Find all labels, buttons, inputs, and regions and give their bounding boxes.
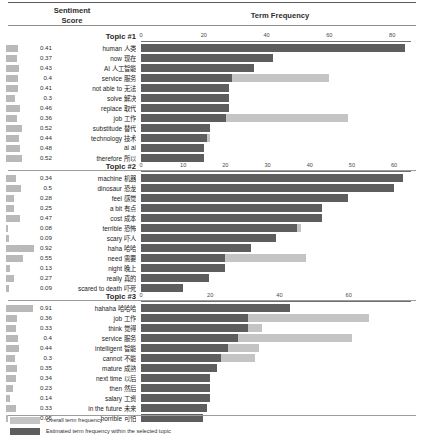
term-row[interactable]: 0.23then然后: [0, 383, 424, 393]
term-row[interactable]: 0.28feel感觉: [0, 193, 424, 203]
term-label: mature成熟: [54, 364, 136, 373]
x-axis-tick-label: 0: [139, 162, 142, 168]
term-label: AI人工智能: [54, 64, 136, 73]
sentiment-score-value: 0.35: [26, 364, 52, 371]
topic-frequency-bar: [141, 134, 207, 142]
topic-frequency-bar: [141, 204, 322, 212]
term-row[interactable]: 0.52substitude替代: [0, 123, 424, 133]
term-label-cn: 吓死: [124, 285, 136, 292]
term-label-en: haha: [108, 245, 122, 252]
term-row[interactable]: 0.5dinosaur恐龙: [0, 183, 424, 193]
sentiment-score-value: 0.92: [26, 244, 52, 251]
term-row[interactable]: 0.91hahaha哈哈哈: [0, 303, 424, 313]
term-row[interactable]: 0.13night晚上: [0, 263, 424, 273]
term-frequency-bars: [141, 234, 411, 242]
topic-frequency-bar: [141, 94, 229, 102]
term-frequency-bars: [141, 304, 411, 312]
sentiment-score-value: 0.55: [26, 254, 52, 261]
term-row[interactable]: 0.34machine机器: [0, 173, 424, 183]
term-frequency-header: Term Frequency: [140, 11, 420, 20]
sentiment-score-bar-fill: [6, 265, 10, 272]
term-frequency-bars: [141, 84, 411, 92]
term-label-cn: 所以: [124, 155, 136, 162]
sentiment-score-value: 0.25: [26, 204, 52, 211]
term-row[interactable]: 0.41human人类: [0, 43, 424, 53]
term-row[interactable]: 0.44technology技术: [0, 133, 424, 143]
term-row[interactable]: 0.14salary工资: [0, 393, 424, 403]
term-label-cn: 有点: [124, 205, 136, 212]
term-row[interactable]: 0.33think觉得: [0, 323, 424, 333]
term-frequency-bars: [141, 334, 411, 342]
sentiment-score-value: 0.91: [26, 304, 52, 311]
topic-frequency-bar: [141, 224, 297, 232]
term-label: service服务: [54, 74, 136, 83]
sentiment-score-bar-fill: [6, 215, 20, 222]
topic-frequency-bar: [141, 254, 225, 262]
term-row[interactable]: 0.36job工作: [0, 113, 424, 123]
term-label-cn: 替代: [124, 125, 136, 132]
term-row[interactable]: 0.4service服务: [0, 73, 424, 83]
term-label: then然后: [54, 384, 136, 393]
term-row[interactable]: 0.46replace取代: [0, 103, 424, 113]
term-label-cn: 真的: [124, 275, 136, 282]
term-row[interactable]: 0.37now现在: [0, 53, 424, 63]
sentiment-score-bar-fill: [6, 405, 16, 412]
sentiment-score-value: 0.43: [26, 64, 52, 71]
term-label-en: machine: [98, 175, 122, 182]
term-label: salary工资: [54, 394, 136, 403]
term-label: in the future未来: [54, 404, 136, 413]
term-label-cn: 然后: [124, 385, 136, 392]
sentiment-score-bar-fill: [6, 195, 14, 202]
term-row[interactable]: 0.34next time以后: [0, 373, 424, 383]
sentiment-score-value: 0.23: [26, 384, 52, 391]
term-row[interactable]: 0.55need需要: [0, 253, 424, 263]
term-row[interactable]: 0.41not able to无法: [0, 83, 424, 93]
term-label-en: a bit: [110, 205, 122, 212]
sentiment-score-bar-fill: [6, 255, 23, 262]
term-row[interactable]: 0.92haha哈哈: [0, 243, 424, 253]
term-label: human人类: [54, 44, 136, 53]
term-row[interactable]: 0.09scary吓人: [0, 233, 424, 243]
legend-swatch-overall-icon: [10, 417, 40, 424]
term-row[interactable]: 0.43AI人工智能: [0, 63, 424, 73]
term-label: need需要: [54, 254, 136, 263]
topic-frequency-bar: [141, 194, 348, 202]
sentiment-score-value: 0.27: [26, 274, 52, 281]
term-label-cn: 工资: [124, 395, 136, 402]
term-label: job工作: [54, 114, 136, 123]
topic-frequency-bar: [141, 264, 225, 272]
topic-frequency-bar: [141, 374, 210, 382]
term-label: service服务: [54, 334, 136, 343]
term-label-en: dinosaur: [97, 185, 122, 192]
term-row[interactable]: 0.25a bit有点: [0, 203, 424, 213]
term-row[interactable]: 0.4service服务: [0, 333, 424, 343]
term-label-cn: 哈哈哈: [118, 305, 136, 312]
term-label-cn: 吓人: [124, 235, 136, 242]
sentiment-score-value: 0.5: [26, 184, 52, 191]
sentiment-score-bar-fill: [6, 85, 18, 92]
x-axis-tick-label: 40: [263, 32, 269, 38]
term-label: hahaha哈哈哈: [54, 304, 136, 313]
term-row[interactable]: 0.48aiai: [0, 143, 424, 153]
term-label-en: next time: [96, 375, 122, 382]
term-row[interactable]: 0.27really真的: [0, 273, 424, 283]
legend-row-topic: Estimated term frequency within the sele…: [10, 427, 310, 437]
sentiment-score-value: 0.09: [26, 284, 52, 291]
term-row[interactable]: 0.44intelligent智能: [0, 343, 424, 353]
sentiment-score-value: 0.46: [26, 104, 52, 111]
term-label: replace取代: [54, 104, 136, 113]
term-row[interactable]: 0.33in the future未来: [0, 403, 424, 413]
term-label-cn: 以后: [124, 375, 136, 382]
term-row[interactable]: 0.3solve解决: [0, 93, 424, 103]
term-row[interactable]: 0.3cannot不能: [0, 353, 424, 363]
term-row[interactable]: 0.36job工作: [0, 313, 424, 323]
term-frequency-bars: [141, 264, 411, 272]
term-label: dinosaur恐龙: [54, 184, 136, 193]
sentiment-score-value: 0.4: [26, 334, 52, 341]
term-row[interactable]: 0.08terrible恐怖: [0, 223, 424, 233]
term-frequency-bars: [141, 54, 411, 62]
term-label-en: mature: [102, 365, 122, 372]
term-row[interactable]: 0.35mature成熟: [0, 363, 424, 373]
term-row[interactable]: 0.47cost成本: [0, 213, 424, 223]
term-label-en: ai: [124, 144, 129, 151]
